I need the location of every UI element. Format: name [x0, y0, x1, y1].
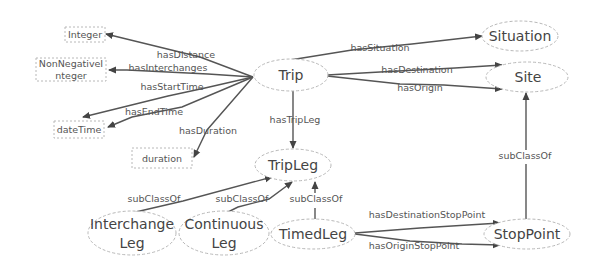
- node-label-trip-leg: TripLeg: [267, 157, 318, 173]
- node-timed-leg[interactable]: TimedLeg: [271, 219, 355, 249]
- edge-label-subclass-timed: subClassOf: [290, 193, 343, 204]
- edge-has-trip-leg: hasTripLeg: [270, 91, 321, 148]
- edge-label-has-situation: hasSituation: [350, 42, 409, 53]
- edge-has-situation: hasSituation: [290, 36, 482, 60]
- node-label-duration: duration: [142, 153, 182, 164]
- node-label-timed-leg: TimedLeg: [278, 226, 347, 242]
- node-site[interactable]: Site: [486, 62, 568, 92]
- node-integer[interactable]: Integer: [65, 27, 105, 42]
- edge-subclass-timed: subClassOf: [290, 182, 343, 219]
- edge-subclass-continuous: subClassOf: [216, 182, 292, 214]
- node-label-integer: Integer: [68, 29, 102, 40]
- node-label-non-negative-integer-line1: NonNegativeI: [39, 58, 103, 69]
- edge-has-destination-stop-point: hasDestinationStopPoint: [355, 209, 500, 233]
- edge-label-has-trip-leg: hasTripLeg: [270, 114, 321, 125]
- edge-label-subclass-continuous: subClassOf: [216, 193, 269, 204]
- node-continuous-leg[interactable]: Continuous Leg: [179, 211, 269, 255]
- node-label-trip: Trip: [277, 67, 303, 83]
- node-situation[interactable]: Situation: [482, 21, 558, 51]
- node-non-negative-integer[interactable]: NonNegativeI nteger: [36, 58, 106, 81]
- edge-label-has-destination: hasDestination: [381, 64, 452, 75]
- node-interchange-leg[interactable]: Interchange Leg: [88, 211, 176, 255]
- node-label-stop-point: StopPoint: [494, 226, 561, 242]
- node-label-site: Site: [515, 69, 542, 85]
- edge-label-subclass-interchange: subClassOf: [128, 193, 181, 204]
- node-label-interchange-leg-line2: Leg: [119, 235, 144, 251]
- edge-label-subclass-stoppoint: subClassOf: [499, 150, 552, 161]
- edge-label-has-destination-stop-point: hasDestinationStopPoint: [369, 209, 486, 220]
- edge-label-has-distance: hasDistance: [157, 49, 215, 60]
- edge-has-origin: hasOrigin: [327, 76, 502, 93]
- node-label-date-time: dateTime: [57, 124, 102, 135]
- edge-label-has-origin-stop-point: hasOriginStopPoint: [369, 240, 460, 251]
- node-label-continuous-leg-line1: Continuous: [184, 216, 263, 232]
- node-label-interchange-leg-line1: Interchange: [90, 216, 174, 232]
- ontology-diagram: hasDistance hasInterchanges hasStartTime…: [0, 0, 598, 268]
- edge-subclass-stoppoint: subClassOf: [499, 93, 552, 219]
- node-trip[interactable]: Trip: [254, 59, 328, 91]
- node-label-situation: Situation: [489, 28, 552, 44]
- edge-has-origin-stop-point: hasOriginStopPoint: [355, 234, 500, 251]
- node-trip-leg[interactable]: TripLeg: [255, 149, 331, 181]
- edge-label-has-interchanges: hasInterchanges: [129, 62, 208, 73]
- node-label-continuous-leg-line2: Leg: [211, 235, 236, 251]
- edge-label-has-origin: hasOrigin: [397, 82, 443, 93]
- edge-label-has-end-time: hasEndTime: [125, 106, 183, 117]
- edge-label-has-duration: hasDuration: [179, 125, 237, 136]
- edge-label-has-start-time: hasStartTime: [140, 81, 203, 92]
- node-stop-point[interactable]: StopPoint: [484, 219, 570, 249]
- node-duration[interactable]: duration: [132, 148, 192, 168]
- node-date-time[interactable]: dateTime: [54, 121, 104, 138]
- node-label-non-negative-integer-line2: nteger: [55, 70, 86, 81]
- edge-has-destination: hasDestination: [327, 64, 502, 75]
